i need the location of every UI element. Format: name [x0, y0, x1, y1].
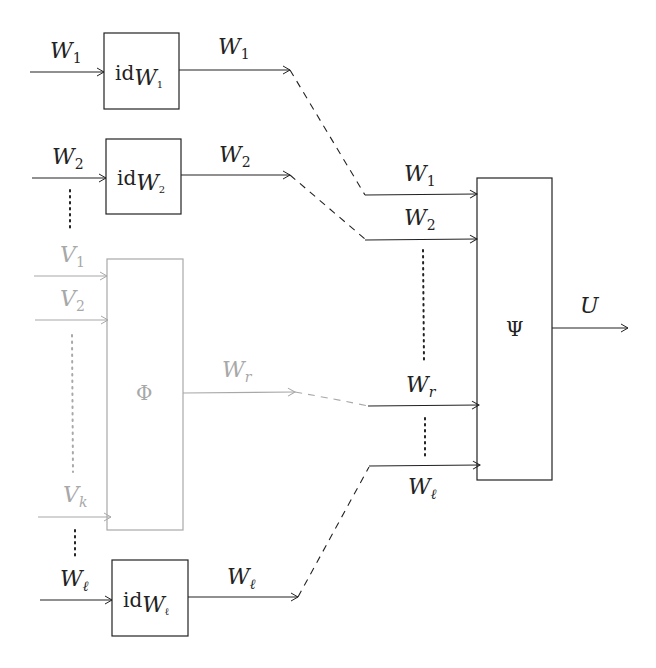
- psi-input-arrow-w1: [365, 194, 477, 195]
- psi-block: W1 W2 Wr Wℓ Ψ U: [365, 161, 628, 502]
- psi-input-label-w1: W1: [404, 161, 436, 189]
- input-label-wl: Wℓ: [60, 566, 89, 594]
- output-label-w1: W1: [218, 34, 250, 62]
- dashed-connector-wl: [298, 467, 369, 597]
- composition-diagram: W1 idW1 W1 W2 idW2 W2 V1 V2 Vk Φ Wr Wℓ: [0, 0, 656, 668]
- phi-block: V1 V2 Vk Φ Wr: [34, 242, 295, 530]
- ellipsis-dots-phi-inputs: [72, 335, 73, 472]
- identity-block-wl: Wℓ idWℓ Wℓ: [40, 560, 298, 636]
- input-label-w1: W1: [50, 38, 82, 66]
- psi-label: Ψ: [506, 317, 524, 341]
- output-label-wl: Wℓ: [227, 564, 256, 592]
- identity-box-label-w2: idW2: [117, 166, 165, 195]
- phi-label: Φ: [136, 381, 152, 405]
- input-label-v2: V2: [60, 286, 85, 314]
- output-label-wr: Wr: [222, 357, 253, 385]
- psi-input-arrow-wl: [369, 465, 480, 466]
- identity-box-label-w1: idW1: [115, 61, 163, 90]
- output-label-w2: W2: [219, 142, 251, 170]
- psi-input-arrow-w2: [365, 239, 477, 240]
- input-label-w2: W2: [52, 144, 84, 172]
- output-arrow-wr: [183, 392, 295, 393]
- psi-input-label-wl: Wℓ: [408, 474, 437, 502]
- ellipsis-dots-psi-top: [423, 250, 424, 362]
- identity-block-w1: W1 idW1 W1: [30, 33, 290, 109]
- dashed-connector-w2: [290, 175, 365, 239]
- psi-input-label-w2: W2: [404, 205, 436, 233]
- input-label-vk: Vk: [63, 482, 87, 510]
- psi-output-label-u: U: [580, 293, 600, 318]
- psi-input-arrow-wr: [368, 405, 479, 406]
- psi-input-label-wr: Wr: [406, 372, 437, 400]
- identity-box-label-wl: idWℓ: [123, 588, 170, 617]
- dashed-connector-wr: [295, 392, 368, 406]
- input-label-v1: V1: [60, 242, 85, 270]
- dashed-connector-w1: [290, 70, 365, 195]
